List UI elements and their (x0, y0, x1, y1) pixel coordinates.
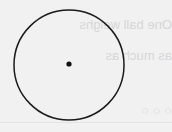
circle-diagram (0, 0, 172, 132)
center-point (66, 61, 71, 66)
